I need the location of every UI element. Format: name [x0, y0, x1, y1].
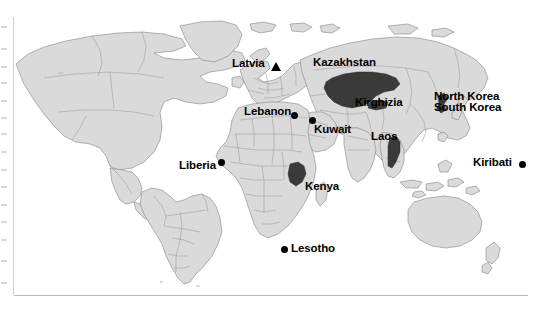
- marker-latvia: [271, 62, 281, 71]
- label-lesotho: Lesotho: [291, 242, 335, 254]
- oceania: [400, 160, 500, 274]
- label-kuwait: Kuwait: [314, 123, 351, 135]
- scan-edge-artifacts: [0, 20, 9, 285]
- label-kiribati: Kiribati: [473, 156, 512, 168]
- map-canvas: [14, 16, 528, 288]
- marker-kiribati: [519, 161, 526, 168]
- label-kenya: Kenya: [305, 180, 339, 192]
- scan-speck: [196, 285, 200, 287]
- label-laos: Laos: [371, 130, 397, 142]
- label-kazakhstan: Kazakhstan: [313, 56, 376, 68]
- scan-speck: [58, 72, 63, 74]
- marker-lebanon: [291, 112, 298, 119]
- marker-lesotho: [281, 246, 288, 253]
- label-south-korea: South Korea: [434, 101, 501, 113]
- scan-speck: [160, 281, 163, 283]
- label-lebanon: Lebanon: [244, 105, 291, 117]
- page-bottom-rule: [14, 295, 528, 296]
- label-latvia: Latvia: [232, 57, 265, 69]
- label-kirghizia: Kirghizia: [355, 96, 403, 108]
- world-map-figure: Latvia Kazakhstan Kirghizia North Korea …: [0, 0, 534, 309]
- marker-liberia: [218, 159, 225, 166]
- label-liberia: Liberia: [179, 159, 216, 171]
- south-america: [140, 188, 222, 284]
